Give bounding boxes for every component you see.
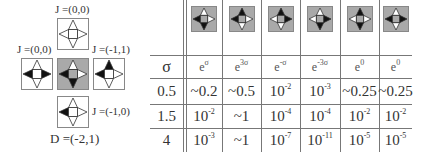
- tile-bottom-label: J =(-1,0): [92, 105, 130, 117]
- center-square-icon: [392, 15, 399, 22]
- tile-right-label: J =(-1,1): [92, 43, 130, 55]
- column-header: e0: [340, 56, 379, 78]
- tile-pattern-icon: [268, 6, 294, 36]
- table-cell: 10-2: [261, 79, 300, 104]
- center-square-icon: [316, 15, 323, 22]
- column-header: e0: [379, 56, 412, 78]
- table-cell: 10-4: [300, 105, 340, 128]
- center-square-icon: [69, 108, 78, 117]
- table-cell: ~0.2: [186, 79, 222, 104]
- center-square-icon: [356, 15, 363, 22]
- table-cell: 10-2: [340, 105, 379, 128]
- center-square-icon: [238, 15, 245, 22]
- center-square-icon: [33, 70, 42, 79]
- table-cell: 10-3: [300, 79, 340, 104]
- table-vline-double-a: [183, 0, 184, 152]
- tile-pattern-icon: [347, 6, 373, 36]
- tile-top: [57, 18, 89, 50]
- center-square-icon: [277, 15, 284, 22]
- table-cell: 10-11: [300, 129, 340, 152]
- table-cell: 10-2: [186, 105, 222, 128]
- column-header: e3σ: [222, 56, 261, 78]
- column-icon: [340, 6, 379, 36]
- table-cell: ~1: [222, 105, 261, 128]
- column-icon: [379, 6, 412, 36]
- tile-bottom: [57, 96, 89, 128]
- tile-left: [21, 58, 53, 90]
- diagram-d-label: D =(-2,1): [50, 131, 99, 147]
- column-icon: [261, 6, 300, 36]
- tile-pattern-icon: [383, 6, 409, 36]
- tile-top-label: J =(0,0): [55, 3, 89, 15]
- table-cell: ~0.25: [379, 79, 412, 104]
- center-square-icon: [200, 15, 207, 22]
- table-cell: 10-5: [379, 129, 412, 152]
- column-header: e-σ: [261, 56, 300, 78]
- sigma-value: 1.5: [150, 105, 183, 128]
- tile-center: [57, 58, 89, 90]
- sigma-value: 0.5: [150, 79, 183, 104]
- tile-pattern-icon: [191, 6, 217, 36]
- table-cell: 10-2: [379, 105, 412, 128]
- sigma-value: 4: [150, 129, 183, 152]
- tile-left-label: J =(0,0): [17, 43, 51, 55]
- center-square-icon: [69, 30, 78, 39]
- tile-pattern-icon: [307, 6, 333, 36]
- column-header: eσ: [186, 56, 222, 78]
- table-cell: 10-3: [186, 129, 222, 152]
- table-cell: 10-7: [261, 129, 300, 152]
- center-square-icon: [105, 70, 114, 79]
- table-cell: ~1: [222, 129, 261, 152]
- tile-pattern-icon: [229, 6, 255, 36]
- center-square-icon: [69, 70, 78, 79]
- table-cell: 10-5: [340, 129, 379, 152]
- column-header: e-3σ: [300, 56, 340, 78]
- table-cell: ~0.5: [222, 79, 261, 104]
- tile-right: [93, 58, 125, 90]
- sigma-header: σ: [150, 56, 183, 78]
- column-icon: [222, 6, 261, 36]
- table-cell: 10-4: [261, 105, 300, 128]
- column-icon: [300, 6, 340, 36]
- table-cell: ~0.25: [340, 79, 379, 104]
- column-icon: [186, 6, 222, 36]
